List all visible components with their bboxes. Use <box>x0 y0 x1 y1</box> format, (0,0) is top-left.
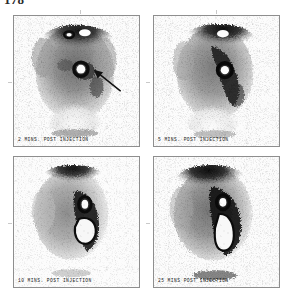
panel-caption: 25 MINS POST INJECTION <box>158 278 229 284</box>
page-number: 178 <box>4 0 24 6</box>
scan-panel-1[interactable]: 2 MINS. POST INJECTION <box>13 15 140 147</box>
registration-tick <box>8 82 12 83</box>
scintigraphy-image-3 <box>14 157 139 287</box>
panel-caption: 10 MINS. POST INJECTION <box>18 278 92 284</box>
registration-tick <box>216 10 217 14</box>
scan-panel-4[interactable]: 25 MINS POST INJECTION <box>153 156 280 288</box>
panel-caption: 2 MINS. POST INJECTION <box>18 137 89 143</box>
panel-caption: 5 MINS. POST INJECTION <box>158 137 229 143</box>
scintigraphy-image-1 <box>14 16 139 146</box>
scan-panel-3[interactable]: 10 MINS. POST INJECTION <box>13 156 140 288</box>
registration-tick <box>80 10 81 14</box>
scan-plate: 2 MINS. POST INJECTION <box>13 15 281 283</box>
registration-tick <box>146 82 150 83</box>
scintigraphy-image-4 <box>154 157 279 287</box>
scintigraphy-image-2 <box>154 16 279 146</box>
registration-tick <box>8 223 12 224</box>
scan-panel-2[interactable]: 5 MINS. POST INJECTION <box>153 15 280 147</box>
registration-tick <box>146 223 150 224</box>
